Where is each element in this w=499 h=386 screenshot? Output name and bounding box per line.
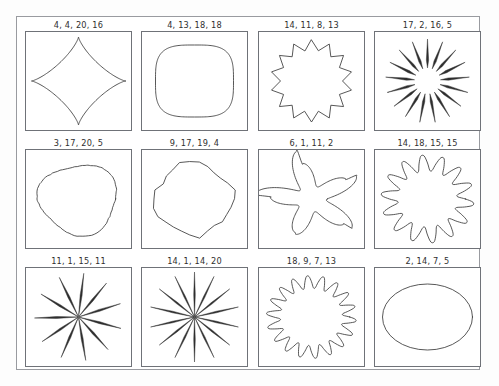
shape-panel-8: 14, 18, 15, 15 xyxy=(374,138,481,249)
shape-panel-11: 18, 9, 7, 13 xyxy=(258,256,365,367)
shape-panel-7: 6, 1, 11, 2 xyxy=(258,138,365,249)
panel-frame-5 xyxy=(25,149,132,249)
shape-panel-1: 4, 4, 20, 16 xyxy=(25,20,132,131)
panel-frame-7 xyxy=(258,149,365,249)
shape-panel-2: 4, 13, 18, 18 xyxy=(141,20,248,131)
five-armed-starfish-icon xyxy=(259,150,364,248)
panel-frame-2 xyxy=(141,31,248,131)
panel-frame-3 xyxy=(258,31,365,131)
panel-frame-9 xyxy=(25,267,132,367)
shape-panel-3: 14, 11, 8, 13 xyxy=(258,20,365,131)
shape-panel-5: 3, 17, 20, 5 xyxy=(25,138,132,249)
ellipse-icon xyxy=(375,268,480,366)
panel-label-11: 18, 9, 7, 13 xyxy=(258,256,365,267)
fourteen-point-scalloped-star-icon xyxy=(375,150,480,248)
panel-frame-10 xyxy=(141,267,248,367)
seventeen-spike-starburst-icon xyxy=(375,32,480,130)
rounded-square-cushion-icon xyxy=(142,32,247,130)
panel-label-8: 14, 18, 15, 15 xyxy=(374,138,481,149)
fourteen-ray-spike-burst-icon xyxy=(142,268,247,366)
panel-label-9: 11, 1, 15, 11 xyxy=(25,256,132,267)
shape-panel-4: 17, 2, 16, 5 xyxy=(374,20,481,131)
panel-label-3: 14, 11, 8, 13 xyxy=(258,20,365,31)
panel-label-10: 14, 1, 14, 20 xyxy=(141,256,248,267)
shape-panel-6: 9, 17, 19, 4 xyxy=(141,138,248,249)
shape-grid: 4, 4, 20, 164, 13, 18, 1814, 11, 8, 1317… xyxy=(0,0,499,386)
panel-frame-1 xyxy=(25,31,132,131)
shape-panel-12: 2, 14, 7, 5 xyxy=(374,256,481,367)
panel-label-6: 9, 17, 19, 4 xyxy=(141,138,248,149)
fourteen-point-star-rosette-icon xyxy=(259,32,364,130)
panel-label-4: 17, 2, 16, 5 xyxy=(374,20,481,31)
nine-sided-irregular-polygon-icon xyxy=(142,150,247,248)
panel-label-12: 2, 14, 7, 5 xyxy=(374,256,481,267)
panel-label-2: 4, 13, 18, 18 xyxy=(141,20,248,31)
panel-frame-4 xyxy=(374,31,481,131)
eighteen-point-wavy-star-icon xyxy=(259,268,364,366)
panel-label-7: 6, 1, 11, 2 xyxy=(258,138,365,149)
four-pointed-concave-star-icon xyxy=(26,32,131,130)
panel-frame-6 xyxy=(141,149,248,249)
figure-root: 4, 4, 20, 164, 13, 18, 1814, 11, 8, 1317… xyxy=(0,0,499,386)
panel-frame-12 xyxy=(374,267,481,367)
panel-label-5: 3, 17, 20, 5 xyxy=(25,138,132,149)
panel-frame-8 xyxy=(374,149,481,249)
eleven-ray-spike-burst-icon xyxy=(26,268,131,366)
panel-frame-11 xyxy=(258,267,365,367)
rounded-triangular-blob-icon xyxy=(26,150,131,248)
shape-panel-10: 14, 1, 14, 20 xyxy=(141,256,248,367)
panel-label-1: 4, 4, 20, 16 xyxy=(25,20,132,31)
shape-panel-9: 11, 1, 15, 11 xyxy=(25,256,132,367)
